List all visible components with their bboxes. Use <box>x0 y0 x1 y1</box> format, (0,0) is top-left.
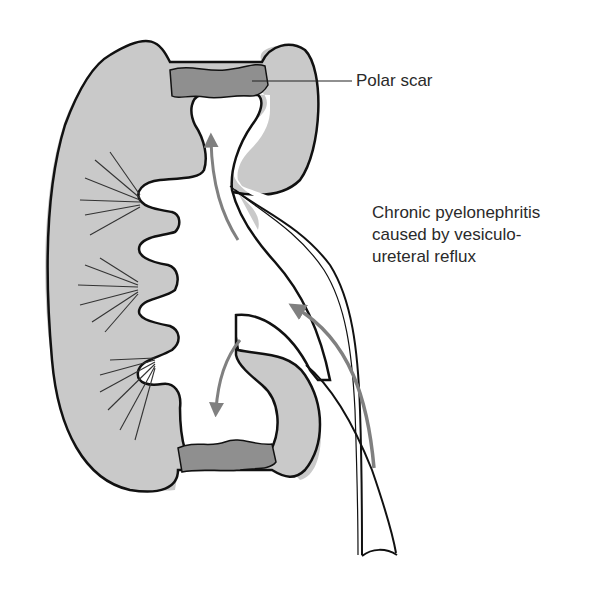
polar-scar-label: Polar scar <box>356 70 433 91</box>
caption-line-1: Chronic pyelonephritis <box>372 202 540 223</box>
caption-line-2: caused by vesiculo- <box>372 224 521 245</box>
caption-line-3: ureteral reflux <box>372 246 476 267</box>
ureter-end <box>362 550 397 556</box>
lower-polar-scar <box>178 440 276 472</box>
kidney-diagram <box>0 0 614 605</box>
